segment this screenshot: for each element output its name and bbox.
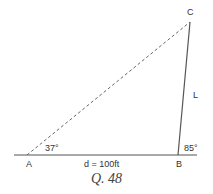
angle-label-a: 37° <box>45 143 59 153</box>
side-label-l: L <box>193 90 198 100</box>
triangle-diagram: C A B 37° 85° L d = 100ft Q. 48 <box>0 0 213 194</box>
side-label-d: d = 100ft <box>84 159 120 169</box>
angle-label-b: 85° <box>184 143 198 153</box>
vertex-label-a: A <box>26 159 32 169</box>
side-bc <box>178 22 190 155</box>
vertex-label-b: B <box>176 159 182 169</box>
figure-caption: Q. 48 <box>91 171 122 186</box>
side-ac-dashed <box>27 22 190 155</box>
vertex-label-c: C <box>187 7 194 17</box>
